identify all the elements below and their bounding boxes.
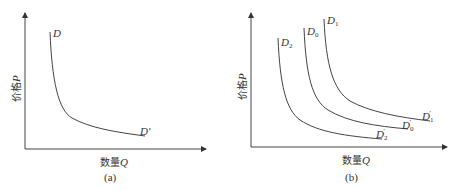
curve-d2-end-label: D2′ — [375, 127, 388, 142]
panel-caption: (a) — [104, 171, 117, 184]
curve-d0-end-label: D0′ — [401, 118, 414, 133]
curve-start-label: D — [52, 27, 61, 39]
panel-b: D2 D0 D1 D2′ D0′ D1′ 价格P 数量Q (b) — [236, 13, 447, 184]
y-axis-label: 价格P — [10, 75, 22, 102]
curve-d1-end-label: D1′ — [421, 109, 434, 124]
curve-d2-start-label: D2 — [280, 36, 293, 50]
demand-curve-d1 — [324, 19, 430, 121]
curve-d0-start-label: D0 — [306, 25, 319, 39]
y-axis-label: 价格P — [236, 73, 248, 100]
demand-curve-d0 — [304, 28, 408, 129]
x-axis-label: 数量Q — [342, 154, 370, 166]
curve-d1-start-label: D1 — [326, 14, 339, 28]
demand-curve-d — [50, 32, 145, 136]
x-axis-label: 数量Q — [100, 156, 128, 168]
panel-a: D D′ 价格P 数量Q (a) — [10, 13, 206, 184]
demand-curves-figure: D D′ 价格P 数量Q (a) D2 D0 D1 D2′ — [0, 0, 453, 191]
curve-end-label: D′ — [139, 125, 151, 137]
panel-caption: (b) — [345, 171, 358, 184]
